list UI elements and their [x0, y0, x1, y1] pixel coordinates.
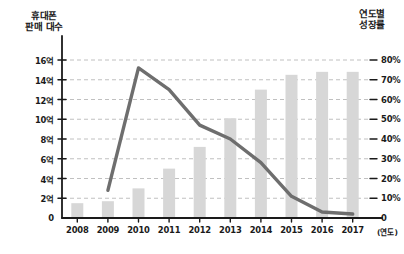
right-axis-tick-label: 40% [381, 134, 400, 144]
chart-plot-area [0, 0, 404, 254]
bar [163, 169, 175, 218]
right-axis-tick-label: 50% [381, 114, 400, 124]
y-axis-tick-label: 10억 [8, 113, 54, 125]
right-axis-tick-label: 60% [381, 95, 400, 105]
right-axis-tick-label: 20% [381, 174, 400, 184]
x-axis-tick-label: 2013 [219, 225, 242, 235]
chart-container: 휴대폰 판매 대수 연도별 성장률 02억4억6억8억10억12억14억16억 … [0, 0, 404, 254]
x-axis-tick-label: 2011 [158, 225, 181, 235]
right-axis-tick-label: 10% [381, 193, 400, 203]
x-axis-tick-label: 2015 [280, 225, 303, 235]
x-axis-tick-label: 2009 [97, 225, 120, 235]
right-axis-tick-label: 30% [381, 154, 400, 164]
x-axis-unit-label: (연도) [377, 226, 398, 237]
right-axis-tick-label: 0 [381, 213, 387, 223]
x-axis-tick-label: 2014 [250, 225, 273, 235]
bar [71, 203, 83, 218]
y-axis-tick-label: 6억 [8, 153, 54, 165]
bar-series [71, 72, 358, 218]
y-axis-tick-label: 12억 [8, 94, 54, 106]
y-axis-tick-label: 2억 [8, 192, 54, 204]
y-axis-tick-label: 4억 [8, 173, 54, 185]
y-axis-tick-label: 8억 [8, 133, 54, 145]
bar [224, 118, 236, 218]
y-axis-tick-label: 14억 [8, 74, 54, 86]
y-axis-tick-label: 16억 [8, 54, 54, 66]
x-axis-tick-label: 2008 [66, 225, 89, 235]
x-axis-tick-label: 2016 [311, 225, 334, 235]
x-axis-tick-label: 2012 [188, 225, 211, 235]
bar [133, 188, 145, 218]
x-axis-tick-label: 2017 [341, 225, 364, 235]
right-axis-tick-label: 70% [381, 75, 400, 85]
x-axis-tick-label: 2010 [127, 225, 150, 235]
y-axis-tick-label: 0 [8, 213, 54, 223]
bar [347, 72, 359, 218]
bar [194, 147, 206, 218]
right-axis-tick-label: 80% [381, 55, 400, 65]
bar [102, 201, 114, 218]
bar [255, 90, 267, 218]
axes [58, 36, 382, 222]
bar [316, 72, 328, 218]
